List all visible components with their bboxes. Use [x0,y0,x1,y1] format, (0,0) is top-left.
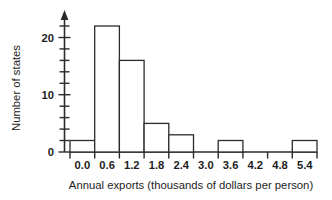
y-axis [61,10,69,152]
y-axis-title: Number of states [10,45,22,131]
bar-3 [144,123,169,152]
histogram-figure: 20 10 0 [0,0,332,200]
y-tick-label-20: 20 [42,32,54,44]
y-axis-labels: 20 10 0 [42,32,54,159]
bar-0 [70,141,95,153]
x-axis-title: Annual exports (thousands of dollars per… [69,179,314,191]
bar-2 [119,60,144,152]
bar-9 [292,141,317,153]
histogram-bars [70,26,317,152]
y-axis-arrow-icon [61,10,69,20]
x-tick-label-3: 1.8 [149,159,165,171]
bar-6 [218,141,243,153]
histogram-chart: 20 10 0 [0,0,332,200]
bar-4 [169,135,194,152]
x-tick-label-6: 3.6 [223,159,239,171]
x-axis-ticks [70,152,317,159]
x-tick-label-4: 2.4 [173,159,189,171]
y-tick-label-10: 10 [42,89,54,101]
y-tick-label-0: 0 [48,146,54,158]
x-tick-label-1: 0.6 [99,159,115,171]
x-tick-label-9: 5.4 [297,159,313,171]
x-tick-label-7: 4.2 [248,159,264,171]
bar-1 [95,26,120,152]
x-axis-labels: 0.0 0.6 1.2 1.8 2.4 3.0 3.6 4.2 4.8 5.4 [75,159,314,171]
x-tick-label-5: 3.0 [198,159,214,171]
x-tick-label-0: 0.0 [75,159,91,171]
x-tick-label-8: 4.8 [272,159,288,171]
x-tick-label-2: 1.2 [124,159,140,171]
